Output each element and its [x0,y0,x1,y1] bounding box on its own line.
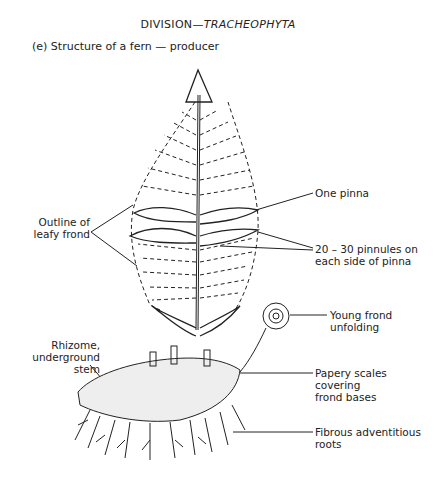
fiddlehead [263,303,289,329]
left-pinna-outlines [138,112,196,300]
label-papery-scales: Papery scales covering frond bases [315,367,387,403]
rhizome [78,358,240,421]
rachis [196,95,200,330]
solid-pinnae [130,70,258,336]
label-pinnules: 20 – 30 pinnules on each side of pinna [315,243,418,267]
right-pinna-outlines [200,110,254,298]
label-roots: Fibrous adventitious roots [315,426,421,450]
leader-pinnules [220,232,313,250]
frond-outline [131,102,258,310]
leader-pinna [256,193,313,210]
label-outline-frond: Outline of leafy frond [20,216,90,240]
label-one-pinna: One pinna [315,187,369,199]
label-rhizome: Rhizome, underground stem [20,339,100,375]
label-young-frond: Young frond unfolding [330,309,392,333]
